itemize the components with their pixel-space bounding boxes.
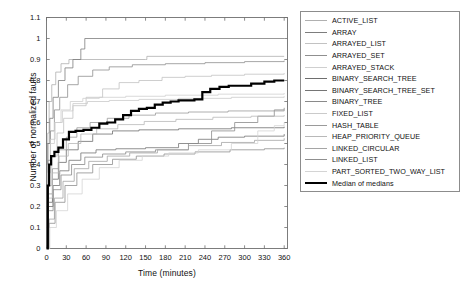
- legend-item-label: ARRAYED_SET: [332, 51, 385, 60]
- legend-swatch-icon: [305, 159, 327, 160]
- legend-item-label: Median of medians: [332, 179, 394, 188]
- x-tick-label: 360: [272, 253, 296, 262]
- figure-root: Number of normalized faults Time (minute…: [0, 0, 476, 293]
- legend-item-label: ACTIVE_LIST: [332, 16, 378, 25]
- legend-item-label: ARRAYED_LIST: [332, 39, 386, 48]
- legend-swatch-icon: [305, 171, 327, 172]
- legend-swatch-icon: [305, 43, 327, 44]
- series-line-binary-tree: [47, 108, 285, 249]
- chart-legend: ACTIVE_LISTARRAYARRAYED_LISTARRAYED_SETA…: [300, 11, 460, 192]
- legend-swatch-icon: [305, 20, 327, 21]
- legend-item-label: ARRAY: [332, 28, 356, 37]
- legend-item-label: PART_SORTED_TWO_WAY_LIST: [332, 167, 445, 176]
- legend-swatch-icon: [305, 113, 327, 114]
- y-tick-label: 0.4: [17, 160, 41, 169]
- legend-item: PART_SORTED_TWO_WAY_LIST: [301, 166, 459, 178]
- y-tick-label: 0.3: [17, 181, 41, 190]
- legend-item: ACTIVE_LIST: [301, 15, 459, 27]
- legend-item: FIXED_LIST: [301, 108, 459, 120]
- legend-item: ARRAYED_SET: [301, 50, 459, 62]
- y-tick-label: 0.9: [17, 55, 41, 64]
- legend-item-label: HASH_TABLE: [332, 121, 379, 130]
- legend-item-label: FIXED_LIST: [332, 109, 373, 118]
- legend-item: LINKED_LIST: [301, 154, 459, 166]
- legend-swatch-icon: [305, 90, 327, 91]
- legend-item-label: LINKED_LIST: [332, 155, 378, 164]
- legend-swatch-icon: [305, 101, 327, 102]
- plot-frame: [47, 18, 288, 249]
- legend-swatch-icon: [305, 32, 327, 33]
- legend-swatch-icon: [305, 67, 327, 68]
- legend-item-label: BINARY_SEARCH_TREE_SET: [332, 86, 435, 95]
- legend-item-label: BINARY_SEARCH_TREE: [332, 74, 417, 83]
- series-line-arrayed-set: [47, 61, 285, 249]
- x-axis-title: Time (minutes): [107, 268, 227, 278]
- legend-swatch-icon: [305, 78, 327, 79]
- legend-swatch-icon: [305, 182, 327, 184]
- legend-swatch-icon: [305, 136, 327, 137]
- y-tick-label: 0.5: [17, 139, 41, 148]
- legend-item: BINARY_TREE: [301, 96, 459, 108]
- series-line-fixed-list: [47, 96, 285, 248]
- legend-item: BINARY_SEARCH_TREE_SET: [301, 85, 459, 97]
- legend-swatch-icon: [305, 55, 327, 56]
- y-tick-label: 1.1: [17, 13, 41, 22]
- y-tick-label: 1: [17, 34, 41, 43]
- y-tick-label: 0.6: [17, 118, 41, 127]
- legend-item: ARRAYED_LIST: [301, 38, 459, 50]
- legend-item-label: ARRAYED_STACK: [332, 63, 394, 72]
- y-tick-label: 0.1: [17, 223, 41, 232]
- legend-item: ARRAYED_STACK: [301, 61, 459, 73]
- y-tick-label: 0.8: [17, 76, 41, 85]
- legend-swatch-icon: [305, 148, 327, 149]
- y-tick-label: 0.7: [17, 97, 41, 106]
- legend-swatch-icon: [305, 125, 327, 126]
- legend-item: HEAP_PRIORITY_QUEUE: [301, 131, 459, 143]
- legend-item: LINKED_CIRCULAR: [301, 143, 459, 155]
- legend-item-label: BINARY_TREE: [332, 97, 382, 106]
- y-tick-label: 0: [17, 244, 41, 253]
- legend-item-label: LINKED_CIRCULAR: [332, 144, 399, 153]
- legend-item: HASH_TABLE: [301, 119, 459, 131]
- legend-item: BINARY_SEARCH_TREE: [301, 73, 459, 85]
- legend-item: Median of medians: [301, 177, 459, 189]
- series-line-linked-list: [47, 148, 285, 249]
- y-tick-label: 0.2: [17, 202, 41, 211]
- legend-item: ARRAY: [301, 27, 459, 39]
- series-line-arrayed-stack: [47, 93, 285, 248]
- legend-item-label: HEAP_PRIORITY_QUEUE: [332, 132, 420, 141]
